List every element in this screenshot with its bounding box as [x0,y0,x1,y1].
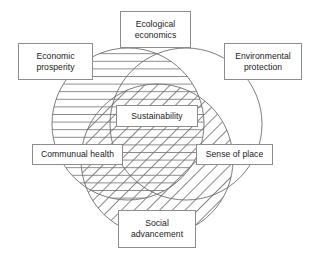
label-sustainability: Sustainability [116,105,198,127]
label-sense-of-place: Sense of place [196,144,273,165]
label-environmental-protection: Environmental protection [224,43,302,80]
label-social-advancement: Social advancement [118,210,196,248]
label-communual-health: Communual health [32,144,123,165]
venn-diagram: Ecological economics Economic prosperity… [0,0,314,260]
label-economic-prosperity: Economic prosperity [18,43,93,80]
label-ecological-economics: Ecological economics [120,11,191,48]
